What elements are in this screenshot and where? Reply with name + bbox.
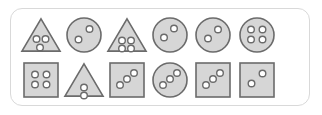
dot-marker-1 [215, 26, 222, 33]
stimulus-item-circle-3-dots[interactable] [148, 59, 192, 101]
dot-marker-2 [81, 92, 88, 99]
stimulus-item-triangle-3-dots[interactable] [19, 14, 63, 56]
stimulus-item-square-4-dots[interactable] [19, 59, 63, 101]
stimulus-item-triangle-2-dots[interactable] [62, 59, 106, 101]
dot-marker-1 [171, 25, 178, 32]
dot-marker-2 [75, 36, 82, 43]
stimulus-item-square-2-dots[interactable] [235, 59, 279, 101]
dot-marker-1 [131, 70, 138, 77]
dot-marker-1 [259, 70, 266, 77]
dot-marker-2 [128, 37, 135, 44]
dot-marker-1 [86, 26, 93, 33]
dot-marker-1 [174, 70, 181, 77]
dot-marker-1 [81, 84, 88, 91]
circle-outline-icon [153, 18, 187, 52]
dot-marker-1 [32, 71, 39, 78]
dot-marker-2 [259, 26, 266, 33]
dot-marker-2 [205, 35, 212, 42]
square-outline-icon [240, 63, 274, 97]
dot-marker-3 [117, 82, 124, 89]
dot-marker-3 [160, 82, 167, 89]
dot-marker-4 [259, 36, 266, 43]
circle-outline-icon [67, 18, 101, 52]
stimulus-item-triangle-4-dots[interactable] [105, 14, 149, 56]
stimulus-item-circle-2-dots[interactable] [148, 14, 192, 56]
dot-marker-2 [248, 80, 255, 87]
dot-marker-4 [43, 81, 50, 88]
dot-marker-4 [128, 45, 135, 52]
stimulus-item-circle-4-dots[interactable] [235, 14, 279, 56]
circle-outline-icon [196, 18, 230, 52]
triangle-outline-icon [108, 19, 146, 51]
dot-marker-2 [161, 34, 168, 41]
circle-outline-icon [240, 18, 274, 52]
dot-marker-3 [203, 82, 210, 89]
stimulus-item-square-3-dots[interactable] [191, 59, 235, 101]
square-outline-icon [24, 63, 58, 97]
stimulus-item-square-3-dots[interactable] [105, 59, 149, 101]
dot-marker-3 [248, 36, 255, 43]
stimulus-item-circle-2-dots[interactable] [62, 14, 106, 56]
dot-marker-2 [210, 76, 217, 83]
dot-marker-3 [32, 81, 39, 88]
dot-marker-1 [33, 36, 40, 43]
dot-marker-2 [167, 76, 174, 83]
dot-marker-1 [248, 26, 255, 33]
dot-marker-2 [42, 36, 49, 43]
dot-marker-1 [119, 37, 126, 44]
dot-marker-2 [43, 71, 50, 78]
dot-marker-3 [119, 45, 126, 52]
stimulus-grid [11, 9, 309, 105]
stimulus-item-circle-2-dots[interactable] [191, 14, 235, 56]
dot-marker-1 [217, 70, 224, 77]
dot-marker-3 [37, 44, 44, 51]
shape-dot-stimulus-panel [10, 8, 310, 106]
dot-marker-2 [124, 76, 131, 83]
